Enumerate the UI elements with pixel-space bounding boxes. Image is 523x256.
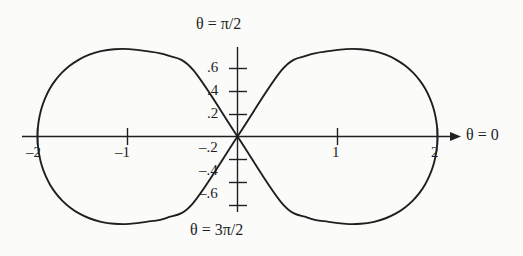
y-tick-label--0.4: –.4 — [199, 163, 218, 178]
x-tick-label--2: –2 — [26, 145, 41, 160]
x-tick-label-2: 2 — [431, 145, 439, 160]
x-tick-label-1: 1 — [332, 145, 340, 160]
axis-label-theta-zero: θ = 0 — [466, 127, 499, 143]
x-tick-label--1: –1 — [115, 145, 130, 160]
y-tick-label-0.4: .4 — [207, 83, 218, 98]
y-tick-label--0.6: –.6 — [199, 186, 218, 201]
plot-canvas — [0, 0, 523, 256]
y-tick-label-0.6: .6 — [207, 60, 218, 75]
polar-plot-figure: . θ = π/2 θ = 3π/2 θ = 0 .6 .4 .2 –.2 –.… — [0, 0, 523, 256]
axis-label-theta-pi-over-2: θ = π/2 — [196, 16, 241, 32]
y-tick-label--0.2: –.2 — [199, 140, 218, 155]
x-axis-arrow-icon — [450, 132, 461, 141]
axis-label-theta-3pi-over-2: θ = 3π/2 — [190, 222, 243, 238]
y-tick-label-0.2: .2 — [207, 106, 218, 121]
